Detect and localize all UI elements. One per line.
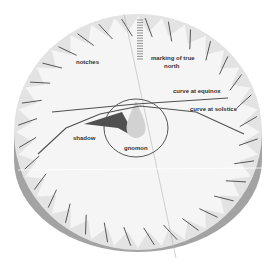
label-shadow: shadow [73,135,96,141]
label-gnomon: gnomon [124,145,148,151]
label-equinox: curve at equinox [173,88,221,94]
label-north-2: north [164,63,180,69]
label-solstice: curve at solstice [190,106,238,112]
label-notches: notches [76,59,100,65]
label-north-1: marking of true [151,55,195,61]
sundial-diagram: notches marking of true north curve at e… [0,0,280,265]
